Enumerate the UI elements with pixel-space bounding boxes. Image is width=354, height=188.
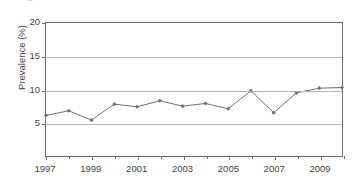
y-tick-label-10: 10 <box>24 85 40 94</box>
x-tick-label-2005: 2005 <box>208 163 248 174</box>
data-point-1998 <box>67 109 71 113</box>
y-tickmark-15 <box>42 57 46 58</box>
data-point-1997 <box>44 113 48 117</box>
gridline-y-10 <box>46 91 342 92</box>
data-point-2001 <box>135 105 139 109</box>
y-tick-label-20: 20 <box>24 17 40 26</box>
y-tick-label-5: 5 <box>24 118 40 127</box>
x-tickmark-minor-2006 <box>252 156 253 159</box>
series-line-prevalence <box>46 23 342 156</box>
x-tick-label-2007: 2007 <box>254 163 294 174</box>
x-tickmark-minor-1998 <box>69 156 70 159</box>
data-point-2003 <box>181 104 185 108</box>
x-tick-label-2001: 2001 <box>117 163 157 174</box>
y-tickmark-20 <box>42 23 46 24</box>
x-tickmark-1997 <box>46 156 47 160</box>
data-point-2004 <box>203 101 207 105</box>
x-tickmark-1999 <box>92 156 93 160</box>
x-tick-label-2009: 2009 <box>300 163 340 174</box>
prevalence-line-chart: a Prevalence (%) 2015105 199719992001200… <box>0 0 354 188</box>
y-tick-label-15: 15 <box>24 51 40 60</box>
x-tickmark-2001 <box>138 156 139 160</box>
plot-area <box>45 22 343 157</box>
gridline-y-15 <box>46 57 342 58</box>
gridline-y-5 <box>46 124 342 125</box>
data-point-2010 <box>340 85 344 89</box>
x-tick-label-1997: 1997 <box>25 163 65 174</box>
x-tick-label-1999: 1999 <box>71 163 111 174</box>
x-tickmark-2005 <box>229 156 230 160</box>
x-tickmark-2009 <box>321 156 322 160</box>
y-axis-tick-labels: 2015105 <box>22 0 40 188</box>
x-tickmark-minor-2000 <box>115 156 116 159</box>
data-point-2002 <box>158 99 162 103</box>
x-tickmark-2003 <box>184 156 185 160</box>
y-tickmark-10 <box>42 91 46 92</box>
y-tickmark-5 <box>42 124 46 125</box>
x-tickmark-minor-2010 <box>344 156 345 159</box>
x-axis-tick-labels: 1997199920012003200520072009 <box>0 163 354 179</box>
x-tickmark-minor-2008 <box>298 156 299 159</box>
x-tick-label-2003: 2003 <box>163 163 203 174</box>
x-tickmark-minor-2004 <box>207 156 208 159</box>
x-tickmark-2007 <box>275 156 276 160</box>
x-tickmark-minor-2002 <box>161 156 162 159</box>
